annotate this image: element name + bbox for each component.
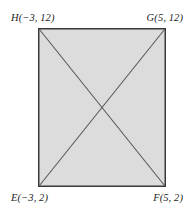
vertex-label-e: E(−3, 2) — [11, 193, 48, 204]
vertex-label-h: H(−3, 12) — [11, 13, 55, 24]
figure-canvas — [0, 0, 192, 215]
vertex-label-g: G(5, 12) — [147, 13, 183, 24]
geometry-figure: H(−3, 12) G(5, 12) E(−3, 2) F(5, 2) — [0, 0, 192, 215]
vertex-label-f: F(5, 2) — [153, 193, 183, 204]
